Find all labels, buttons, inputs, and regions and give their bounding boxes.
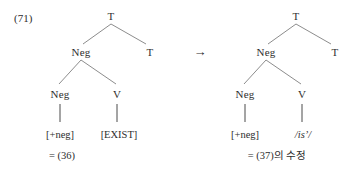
right-tree-node-neg-inner: Neg: [236, 89, 255, 100]
right-tree-node-v: V: [298, 89, 306, 100]
left-tree-node-neg: Neg: [72, 47, 91, 58]
left-tree-caption: = (36): [49, 150, 75, 162]
right-tree-leaf-neg-feature: [+neg]: [231, 129, 259, 140]
left-tree-branch-root-to-neg: [83, 24, 111, 44]
left-tree-node-v: V: [113, 89, 121, 100]
right-tree-leaf-iss: /isʼ/: [295, 129, 311, 140]
left-tree-node-root-t: T: [108, 11, 115, 22]
syntax-tree-figure: (71) T Neg T Neg V [+neg] [EXIST] = (36)…: [0, 0, 362, 171]
left-tree-node-neg-inner: Neg: [51, 89, 70, 100]
right-tree-node-t: T: [332, 47, 339, 58]
left-tree-node-t: T: [147, 47, 154, 58]
right-tree-branch-root-to-t: [296, 24, 331, 44]
right-tree-caption: = (37)의 수정: [248, 150, 307, 162]
right-tree-branch-neg-to-neg: [244, 60, 266, 84]
right-tree-node-root-t: T: [293, 11, 300, 22]
right-tree-branch-root-to-neg: [268, 24, 296, 44]
left-tree-branch-neg-to-neg: [59, 60, 81, 84]
right-tree-node-neg: Neg: [257, 47, 276, 58]
transform-arrow-icon: →: [194, 45, 207, 58]
left-tree-leaf-exist: [EXIST]: [101, 129, 138, 140]
tree-branch-lines: [0, 0, 362, 171]
example-number-label: (71): [14, 13, 32, 24]
left-tree-branch-neg-to-v: [81, 60, 116, 84]
right-tree-branch-neg-to-v: [266, 60, 301, 84]
left-tree-leaf-neg-feature: [+neg]: [46, 129, 74, 140]
left-tree-branch-root-to-t: [111, 24, 146, 44]
